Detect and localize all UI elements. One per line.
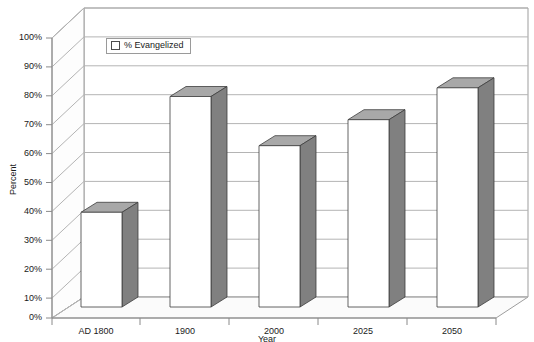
y-tick-label: 0%	[2, 312, 42, 322]
bar-side-face	[122, 202, 138, 307]
legend-swatch-icon	[111, 41, 120, 50]
y-tick-label: 80%	[2, 90, 42, 100]
chart-container: 100% 90% 80% 70% 60% 50% 40% 30% 20% 10%…	[0, 0, 534, 342]
chart-plot-svg	[0, 0, 534, 342]
bar-side-face	[478, 78, 494, 307]
bar-side-face	[300, 136, 316, 307]
y-tick-label: 100%	[2, 32, 42, 42]
bar-side-face	[211, 87, 227, 308]
y-axis-title: Percent	[8, 164, 18, 195]
bar-front-face	[259, 146, 300, 307]
y-tick-label: 30%	[2, 235, 42, 245]
bar-1900[interactable]	[170, 87, 227, 308]
bar-side-face	[389, 110, 405, 307]
chart-legend[interactable]: % Evangelized	[106, 38, 191, 54]
bar-front-face	[170, 97, 211, 308]
bar-2050[interactable]	[437, 78, 494, 307]
bar-front-face	[437, 88, 478, 307]
y-tick-label: 40%	[2, 206, 42, 216]
y-tick-label: 20%	[2, 264, 42, 274]
bar-ad-1800[interactable]	[81, 202, 138, 307]
bar-front-face	[348, 120, 389, 307]
x-axis	[52, 318, 496, 325]
bar-front-face	[81, 212, 122, 307]
y-axis	[46, 38, 52, 318]
legend-entry-label: % Evangelized	[124, 41, 184, 50]
bar-2025[interactable]	[348, 110, 405, 307]
y-tick-label: 70%	[2, 119, 42, 129]
y-tick-label: 10%	[2, 293, 42, 303]
x-axis-title: Year	[0, 334, 534, 342]
y-tick-label: 90%	[2, 61, 42, 71]
bar-2000[interactable]	[259, 136, 316, 307]
left-wall	[52, 8, 84, 318]
y-tick-label: 60%	[2, 148, 42, 158]
